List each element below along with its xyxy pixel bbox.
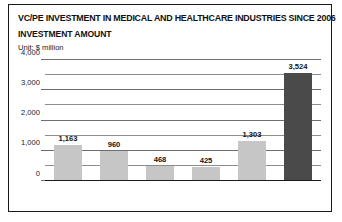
gridline-major bbox=[45, 150, 321, 151]
y-axis-tick-label: 0 bbox=[36, 168, 40, 177]
page-title: VC/PE INVESTMENT IN MEDICAL AND HEALTHCA… bbox=[18, 13, 336, 23]
gridline-minor bbox=[45, 165, 321, 166]
bar-value-label: 960 bbox=[108, 140, 121, 149]
bar-2007[interactable] bbox=[100, 151, 129, 180]
bar-2009[interactable] bbox=[192, 167, 221, 180]
bar-2011-1-9[interactable] bbox=[284, 73, 313, 180]
y-axis-tick-label: 1,000 bbox=[21, 138, 40, 147]
bar-value-label: 1,303 bbox=[242, 130, 261, 139]
y-axis-tick-label: 2,000 bbox=[21, 108, 40, 117]
y-axis-tick-mark bbox=[41, 120, 45, 121]
bar-2010[interactable] bbox=[238, 141, 267, 180]
bar-value-label: 3,524 bbox=[288, 62, 307, 71]
plot-area: 01,0002,0003,0004,0001,16320069602007468… bbox=[45, 59, 321, 181]
gridline-major bbox=[45, 59, 321, 60]
gridline-minor bbox=[45, 135, 321, 136]
x-axis-line bbox=[45, 180, 321, 181]
y-axis-tick-mark bbox=[41, 150, 45, 151]
gridline-major bbox=[45, 89, 321, 90]
bar-2008[interactable] bbox=[146, 166, 175, 180]
y-axis-tick-label: 3,000 bbox=[21, 77, 40, 86]
bar-value-label: 1,163 bbox=[58, 134, 77, 143]
y-axis-tick-mark bbox=[41, 180, 45, 181]
y-axis-tick-mark bbox=[41, 89, 45, 90]
chart-card: VC/PE INVESTMENT IN MEDICAL AND HEALTHCA… bbox=[8, 4, 332, 212]
bar-2006[interactable] bbox=[54, 145, 83, 180]
y-axis-tick-label: 4,000 bbox=[21, 47, 40, 56]
bar-value-label: 425 bbox=[200, 156, 213, 165]
bar-value-label: 468 bbox=[154, 155, 167, 164]
gridline-major bbox=[45, 120, 321, 121]
y-axis-tick-mark bbox=[41, 59, 45, 60]
gridline-minor bbox=[45, 74, 321, 75]
gridline-minor bbox=[45, 104, 321, 105]
chart-subtitle: INVESTMENT AMOUNT bbox=[18, 29, 111, 39]
